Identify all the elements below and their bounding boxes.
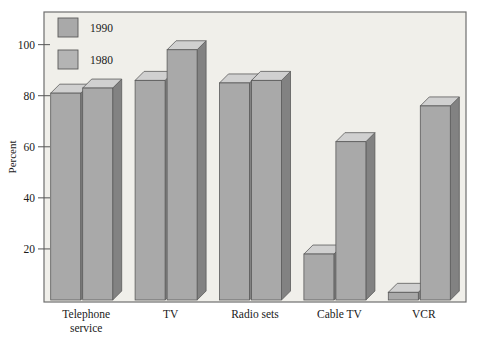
bar [252, 71, 291, 300]
y-tick-label: 80 [24, 90, 36, 102]
bar-front-face [51, 93, 81, 300]
legend-label: 1990 [90, 22, 113, 34]
bar-front-face [252, 80, 282, 300]
bar-side-face [282, 71, 291, 300]
bar [336, 133, 375, 300]
bar-front-face [220, 83, 250, 300]
bar-side-face [113, 79, 122, 300]
bar-chart-svg: 20406080100 Percent TelephoneserviceTVRa… [0, 0, 484, 340]
bar-front-face [167, 50, 197, 300]
bar-front-face [336, 142, 366, 300]
x-tick-label-line2: service [70, 322, 103, 334]
y-tick-label: 20 [24, 243, 36, 255]
y-axis-title: Percent [6, 141, 18, 174]
bar-side-face [197, 41, 206, 300]
y-tick-label: 40 [24, 192, 36, 204]
bar [83, 79, 122, 300]
x-tick-label: TV [163, 308, 179, 320]
x-tick-label: Cable TV [317, 308, 363, 320]
y-tick-label: 100 [18, 39, 36, 51]
legend-swatch [58, 18, 78, 37]
x-tick-label: Radio sets [231, 308, 279, 320]
bar-front-face [388, 292, 418, 300]
x-tick-label: Telephone [62, 308, 110, 321]
bar-front-face [304, 254, 334, 300]
x-tick-label: VCR [412, 308, 436, 320]
bar [167, 41, 206, 300]
chart-figure: 20406080100 Percent TelephoneserviceTVRa… [0, 0, 484, 340]
bar-front-face [83, 88, 113, 300]
legend-swatch [58, 50, 78, 69]
bar [420, 97, 459, 300]
legend-label: 1980 [90, 54, 113, 66]
bar-front-face [420, 106, 450, 300]
bar-side-face [366, 133, 375, 300]
y-tick-label: 60 [24, 141, 36, 153]
bar-side-face [450, 97, 459, 300]
bar-front-face [135, 80, 165, 300]
